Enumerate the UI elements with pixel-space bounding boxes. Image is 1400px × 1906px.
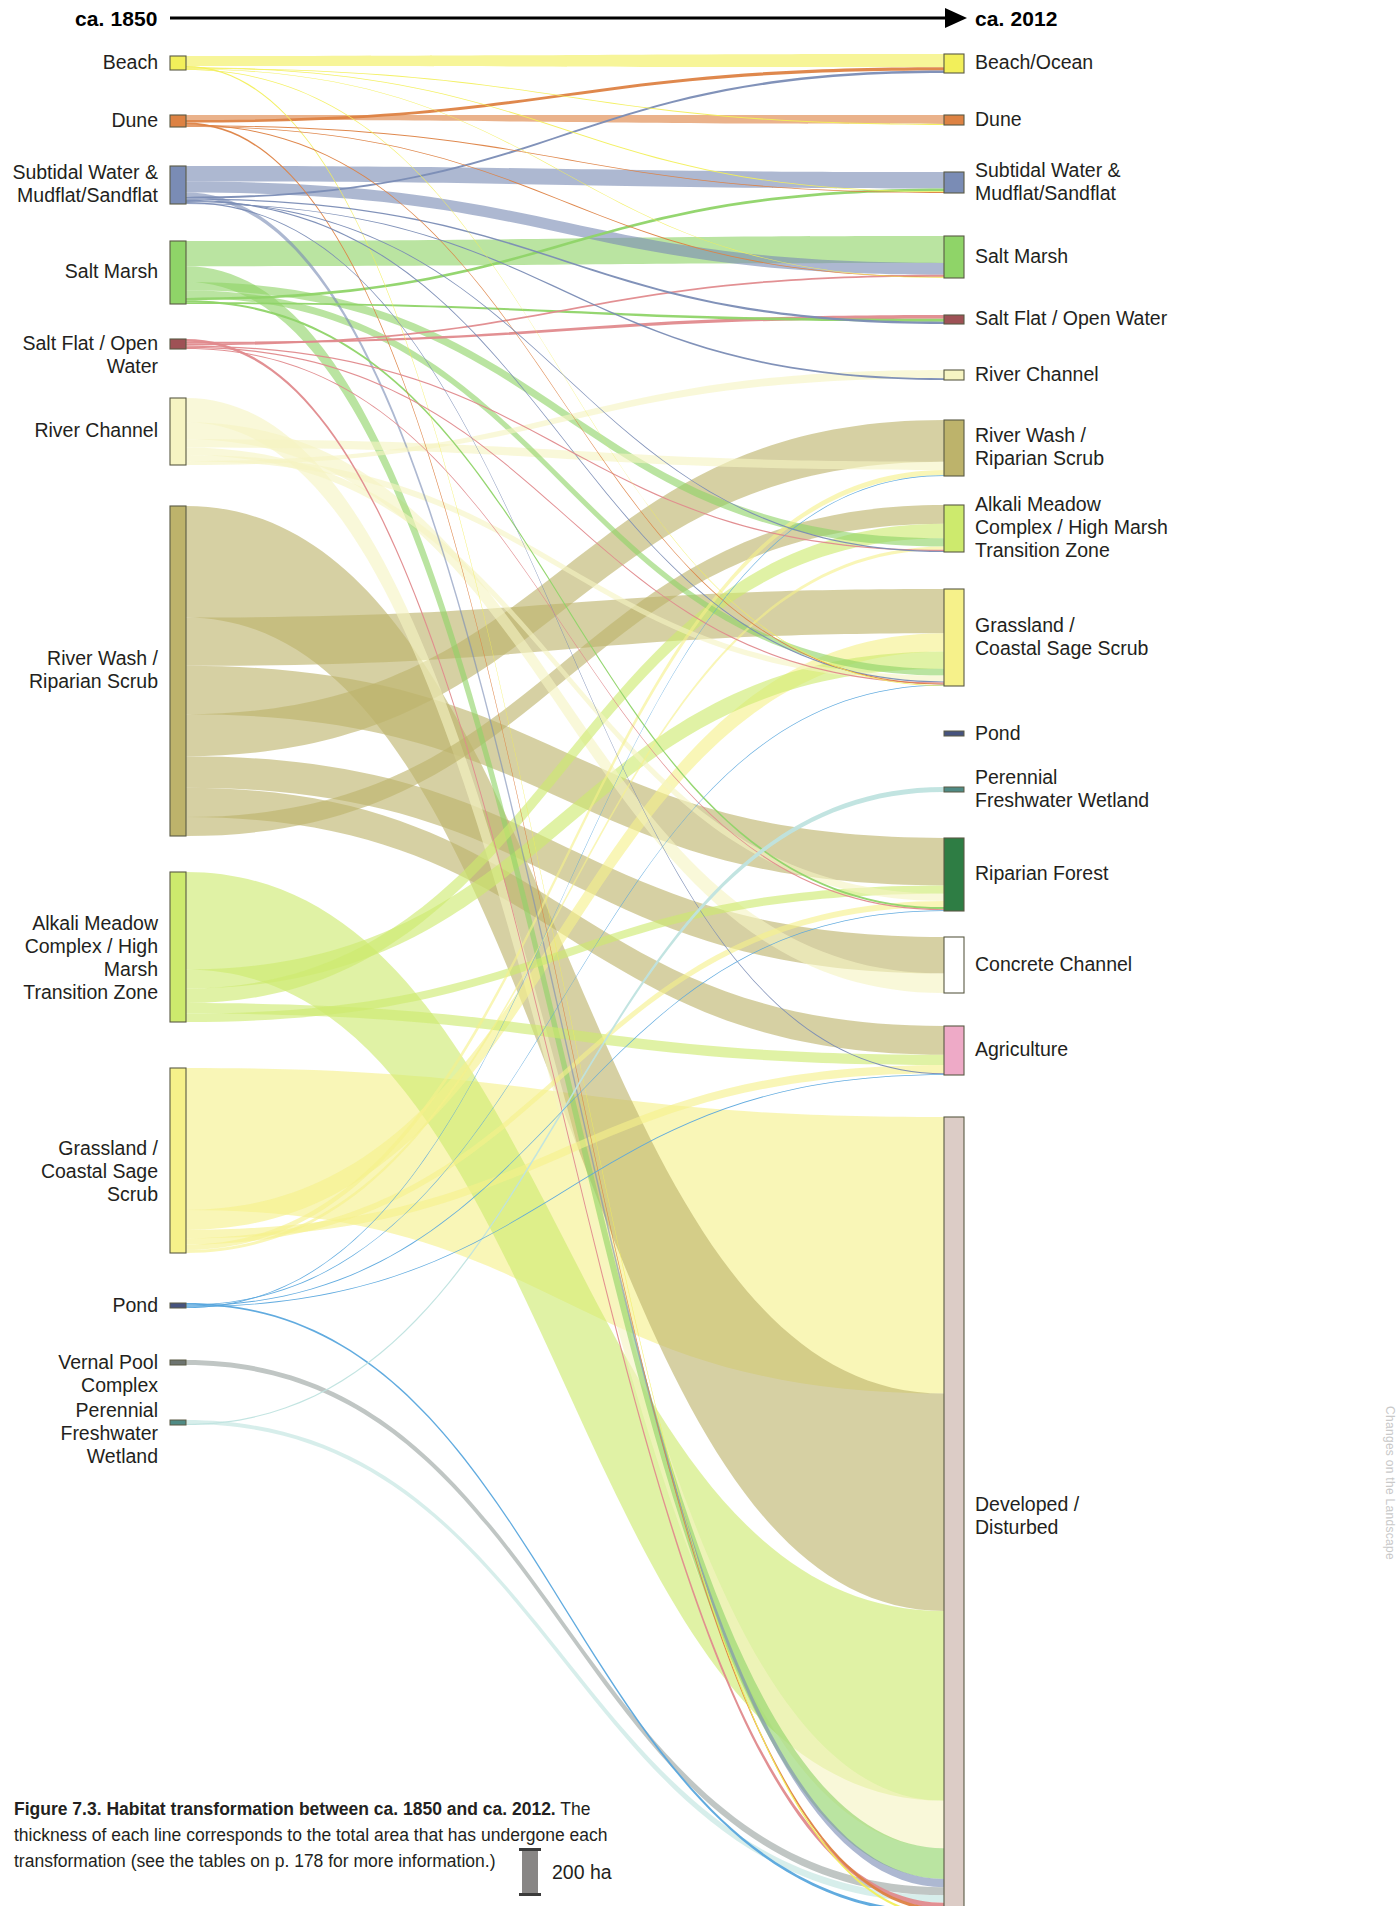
sankey-node	[944, 589, 964, 686]
node-label-r-beach: Beach/Ocean	[975, 51, 1400, 74]
sankey-node	[944, 236, 964, 278]
node-label-r-riparianforest: Riparian Forest	[975, 862, 1400, 885]
node-label-l-riverwash: River Wash / Riparian Scrub	[0, 647, 158, 693]
sankey-node	[944, 315, 964, 324]
node-label-l-beach: Beach	[0, 51, 158, 74]
sankey-node	[944, 937, 964, 993]
node-label-l-dune: Dune	[0, 109, 158, 132]
node-label-r-riverwash: River Wash / Riparian Scrub	[975, 424, 1400, 470]
node-label-l-pond: Pond	[0, 1294, 158, 1317]
sankey-node	[170, 166, 186, 204]
sankey-links	[186, 54, 944, 1906]
sankey-node	[170, 1360, 186, 1365]
sankey-link	[186, 54, 944, 67]
scale-bar: 200 ha	[519, 1848, 612, 1896]
axis-label-right: ca. 2012	[975, 7, 1058, 31]
sankey-node	[170, 56, 186, 70]
node-label-l-grassland: Grassland / Coastal Sage Scrub	[0, 1137, 158, 1206]
sankey-node	[944, 505, 964, 552]
sankey-node	[944, 838, 964, 911]
sankey-node	[944, 115, 964, 125]
axis-label-left: ca. 1850	[75, 7, 158, 31]
sankey-node	[944, 731, 964, 736]
node-label-l-subtidal: Subtidal Water & Mudflat/Sandflat	[0, 161, 158, 207]
page-side-note: Changes on the Landscape	[1383, 1406, 1397, 1560]
node-label-r-dune: Dune	[975, 108, 1400, 131]
node-label-r-concrete: Concrete Channel	[975, 953, 1400, 976]
sankey-node	[170, 506, 186, 836]
node-label-r-alkali: Alkali Meadow Complex / High Marsh Trans…	[975, 493, 1400, 562]
node-label-l-vernal: Vernal Pool Complex	[0, 1351, 158, 1397]
sankey-node	[944, 54, 964, 73]
sankey-node	[944, 787, 964, 792]
sankey-node	[944, 370, 964, 380]
scale-bar-glyph	[519, 1848, 541, 1896]
sankey-node	[170, 115, 186, 127]
sankey-node	[170, 1303, 186, 1308]
node-label-r-subtidal: Subtidal Water & Mudflat/Sandflat	[975, 159, 1400, 205]
node-label-r-riverchannel: River Channel	[975, 363, 1400, 386]
node-label-r-saltmarsh: Salt Marsh	[975, 245, 1400, 268]
sankey-node	[944, 1026, 964, 1075]
scale-bar-label: 200 ha	[552, 1861, 612, 1884]
node-label-r-perennial: Perennial Freshwater Wetland	[975, 766, 1400, 812]
node-label-l-saltmarsh: Salt Marsh	[0, 260, 158, 283]
sankey-node	[170, 241, 186, 304]
sankey-node	[170, 339, 186, 349]
sankey-node	[944, 420, 964, 476]
node-label-r-agriculture: Agriculture	[975, 1038, 1400, 1061]
sankey-node	[170, 1420, 186, 1425]
sankey-node	[170, 872, 186, 1022]
node-label-r-pond: Pond	[975, 722, 1400, 745]
node-label-r-grassland: Grassland / Coastal Sage Scrub	[975, 614, 1400, 660]
node-label-r-saltflat: Salt Flat / Open Water	[975, 307, 1400, 330]
node-label-l-riverchannel: River Channel	[0, 419, 158, 442]
node-label-l-perennial: Perennial Freshwater Wetland	[0, 1399, 158, 1468]
timeline-arrow	[170, 8, 967, 28]
node-label-l-saltflat: Salt Flat / Open Water	[0, 332, 158, 378]
sankey-node	[170, 1068, 186, 1253]
caption-title: Figure 7.3. Habitat transformation betwe…	[14, 1799, 556, 1819]
sankey-node	[170, 398, 186, 465]
sankey-node	[944, 172, 964, 193]
node-label-r-developed: Developed / Disturbed	[975, 1493, 1400, 1539]
node-label-l-alkali: Alkali Meadow Complex / High Marsh Trans…	[0, 912, 158, 1004]
sankey-node	[944, 1117, 964, 1906]
